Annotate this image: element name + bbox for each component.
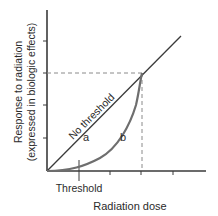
curve-b-label: b (120, 131, 126, 143)
dose-response-diagram: No threshold a b Threshold Radiation dos… (0, 0, 218, 216)
y-axis-label-line2: (expressed in biologic effects) (25, 23, 37, 162)
x-axis-label: Radiation dose (93, 200, 166, 212)
threshold-label: Threshold (56, 182, 103, 194)
curve-a-label: a (83, 131, 90, 143)
no-threshold-label: No threshold (66, 91, 117, 142)
no-threshold-line-a (47, 36, 181, 171)
y-axis-label-line1: Response to radiation (12, 41, 24, 143)
